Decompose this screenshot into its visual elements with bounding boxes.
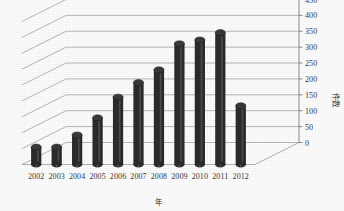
bar-body (236, 106, 246, 165)
bar-highlight (78, 135, 80, 165)
bar-body (154, 70, 164, 165)
bar (52, 144, 62, 167)
x-axis-tick-label: 2004 (69, 172, 85, 181)
y-axis-tick-label: 400 (305, 11, 317, 20)
x-axis-tick-label: 2008 (151, 172, 167, 181)
chart-canvas: 050100150200250300350400450 200220032004… (0, 0, 344, 211)
x-axis-labels-group: 2002200320042005200620072008200920102011… (28, 165, 249, 181)
gridline-depth-edge (22, 31, 66, 53)
bar (72, 132, 82, 168)
bar (31, 144, 41, 167)
y-axis-tick-label: 350 (305, 27, 317, 36)
bar-body (215, 33, 225, 165)
x-axis-tick-label: 2009 (171, 172, 187, 181)
bar (113, 94, 123, 167)
y-axis-tick-label: 450 (305, 0, 317, 5)
gridline-depth-edge (22, 15, 66, 37)
bar (236, 103, 246, 168)
bar-chart: 050100150200250300350400450 200220032004… (0, 0, 344, 211)
y-axis-tick-label: 250 (305, 59, 317, 68)
bar (174, 41, 184, 168)
bar-body (92, 118, 102, 165)
x-axis-tick-label: 2005 (89, 172, 105, 181)
bar (154, 67, 164, 168)
bar-top-cap (215, 30, 225, 36)
bar-body (133, 83, 143, 165)
gridline-depth-edge (22, 63, 66, 85)
bar-highlight (160, 70, 162, 165)
y-axis-tick-label: 100 (305, 107, 317, 116)
bar-top-cap (133, 80, 143, 86)
gridline-depth-edge (22, 95, 66, 117)
x-axis-tick-label: 2012 (233, 172, 249, 181)
x-axis-tick-label: 2003 (48, 172, 64, 181)
bar-highlight (98, 118, 100, 165)
bar-top-cap (72, 132, 82, 138)
bars-group (31, 30, 246, 168)
x-axis-tick-label: 2007 (130, 172, 146, 181)
bar (215, 30, 225, 168)
x-axis-tick-label: 2011 (212, 172, 228, 181)
y-axis-tick-label: 150 (305, 91, 317, 100)
bar-top-cap (113, 94, 123, 100)
gridline-depth-edge (22, 0, 66, 22)
bar-highlight (180, 44, 182, 165)
y-axis-title: 件数 (331, 93, 341, 108)
y-axis-group: 050100150200250300350400450 (299, 0, 317, 148)
bar-body (113, 97, 123, 164)
y-axis-tick-label: 50 (305, 123, 313, 132)
y-axis-tick-label: 0 (305, 139, 309, 148)
gridline-depth-edge (22, 111, 66, 133)
bar (133, 80, 143, 168)
gridline-depth-edge (22, 47, 66, 69)
bar-top-cap (174, 41, 184, 47)
y-axis-tick-label: 300 (305, 43, 317, 52)
bar (92, 115, 102, 168)
x-axis-tick-label: 2010 (192, 172, 208, 181)
axis-floor-right-edge (255, 143, 299, 165)
bar-highlight (221, 33, 223, 165)
bar-body (195, 40, 205, 165)
bar-highlight (201, 40, 203, 165)
bar-body (174, 44, 184, 165)
y-axis-tick-label: 200 (305, 75, 317, 84)
bar-top-cap (236, 103, 246, 109)
bar-top-cap (154, 67, 164, 73)
bar-highlight (119, 97, 121, 164)
bar-top-cap (52, 144, 62, 150)
x-axis-title: 年 (155, 197, 163, 207)
x-axis-tick-label: 2006 (110, 172, 126, 181)
gridline-depth-edge (22, 79, 66, 101)
bar-top-cap (195, 37, 205, 43)
bar-highlight (242, 106, 244, 165)
bar-highlight (139, 83, 141, 165)
bar-top-cap (31, 144, 41, 150)
bar (195, 37, 205, 168)
bar-top-cap (92, 115, 102, 121)
bar-body (72, 135, 82, 165)
x-axis-tick-label: 2002 (28, 172, 44, 181)
